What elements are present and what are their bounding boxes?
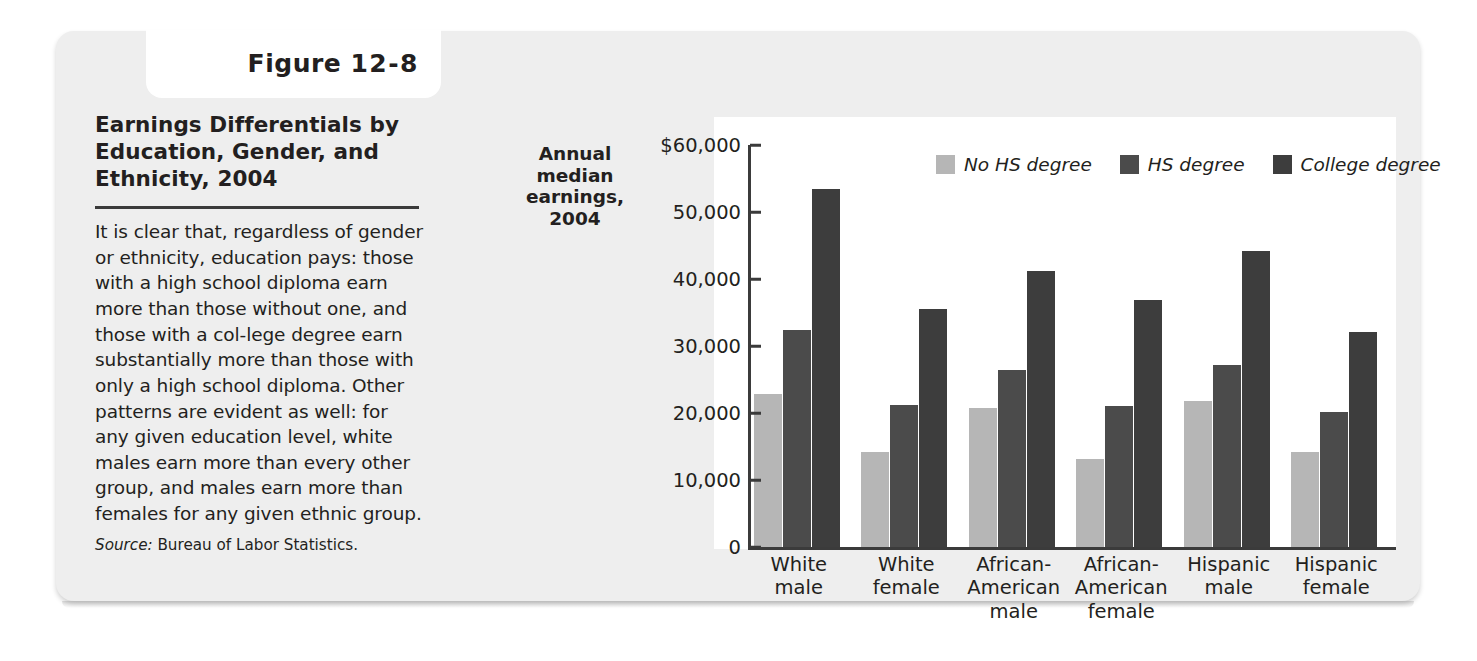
x-category-label: African-Americanmale — [960, 553, 1068, 623]
source-label: Source: — [95, 536, 153, 554]
bar — [969, 408, 997, 547]
figure-word: Figure — [248, 49, 342, 78]
figure-body-text: It is clear that, regardless of gender o… — [95, 219, 425, 526]
y-tick-label: 50,000 — [673, 201, 741, 224]
figure-number: 12-8 — [350, 49, 419, 78]
figure-source: Source: Bureau of Labor Statistics. — [95, 536, 425, 554]
bar — [1105, 406, 1133, 547]
y-tick-label: $60,000 — [660, 134, 741, 157]
x-category-label-line: male — [745, 576, 853, 599]
x-category-label-line: African- — [960, 553, 1068, 576]
y-axis-tick — [750, 144, 761, 147]
y-axis-tick — [750, 412, 761, 415]
bar-group — [861, 145, 947, 547]
y-tick-label: 20,000 — [673, 402, 741, 425]
bar — [890, 405, 918, 547]
bar — [1291, 452, 1319, 547]
x-category-label-line: American — [1068, 576, 1176, 599]
bar — [1349, 332, 1377, 547]
bar — [1134, 300, 1162, 547]
chart: Annual median earnings, 2004 $60,00050,0… — [511, 109, 1401, 589]
bar — [783, 330, 811, 547]
x-category-label-line: African- — [1068, 553, 1176, 576]
bar — [1213, 365, 1241, 547]
bar — [754, 394, 782, 547]
figure-title: Earnings Differentials by Education, Gen… — [95, 111, 425, 192]
x-axis-line — [748, 547, 1396, 550]
source-value: Bureau of Labor Statistics. — [153, 536, 358, 554]
figure-text-column: Earnings Differentials by Education, Gen… — [95, 111, 425, 554]
x-category-label: Whitefemale — [853, 553, 961, 600]
x-category-label: African-Americanfemale — [1068, 553, 1176, 623]
y-tick-label: 40,000 — [673, 268, 741, 291]
bar — [1027, 271, 1055, 547]
bar — [861, 452, 889, 547]
x-category-label-line: White — [745, 553, 853, 576]
y-tick-label: 0 — [729, 536, 741, 559]
y-tick-label: 30,000 — [673, 335, 741, 358]
x-category-label-line: Hispanic — [1283, 553, 1391, 576]
x-category-label: Hispanicfemale — [1283, 553, 1391, 600]
y-axis-tick — [750, 345, 761, 348]
x-category-label-line: Hispanic — [1175, 553, 1283, 576]
x-category-label-line: White — [853, 553, 961, 576]
bar-group — [969, 145, 1055, 547]
bar-group — [1076, 145, 1162, 547]
bar — [1320, 412, 1348, 547]
x-category-label: Whitemale — [745, 553, 853, 600]
x-axis-category-labels: WhitemaleWhitefemaleAfrican-Americanmale… — [751, 553, 1396, 623]
bar — [1184, 401, 1212, 547]
bar-group — [1184, 145, 1270, 547]
bar — [1076, 459, 1104, 547]
bar-group — [754, 145, 840, 547]
x-category-label-line: American — [960, 576, 1068, 599]
bar — [919, 309, 947, 547]
y-tick-label: 10,000 — [673, 469, 741, 492]
y-axis-tick — [750, 546, 761, 549]
figure-panel: Figure 12-8 Earnings Differentials by Ed… — [56, 31, 1420, 601]
x-category-label-line: male — [960, 600, 1068, 623]
figure-number-label: Figure 12-8 — [146, 49, 419, 78]
bar-group — [1291, 145, 1377, 547]
y-axis-tick-labels: $60,00050,00040,00030,00020,00010,0000 — [611, 109, 741, 589]
y-axis-tick — [750, 211, 761, 214]
bars-container — [751, 145, 1396, 547]
bar — [812, 189, 840, 547]
bar — [998, 370, 1026, 547]
y-axis-tick — [750, 479, 761, 482]
x-category-label: Hispanicmale — [1175, 553, 1283, 600]
bar — [1242, 251, 1270, 547]
x-category-label-line: female — [1283, 576, 1391, 599]
figure-number-tab: Figure 12-8 — [146, 30, 441, 98]
title-divider — [95, 206, 419, 209]
x-category-label-line: male — [1175, 576, 1283, 599]
x-category-label-line: female — [853, 576, 961, 599]
y-axis-tick — [750, 278, 761, 281]
x-category-label-line: female — [1068, 600, 1176, 623]
